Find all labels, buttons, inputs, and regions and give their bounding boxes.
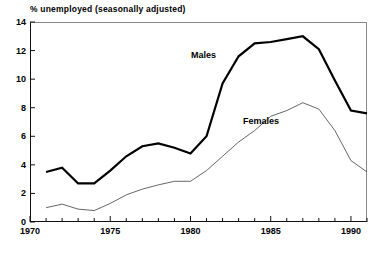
series-annotation-females: Females xyxy=(243,116,279,126)
series-annotation-males: Males xyxy=(191,50,216,60)
series-line-females xyxy=(46,103,367,211)
y-tick-label: 10 xyxy=(4,74,26,84)
x-tick-label: 1990 xyxy=(341,226,361,236)
y-tick-label: 6 xyxy=(4,131,26,141)
x-tick-label: 1985 xyxy=(261,226,281,236)
data-series-layer xyxy=(46,36,367,210)
x-tick-label: 1975 xyxy=(100,226,120,236)
x-tick-label: 1970 xyxy=(20,226,40,236)
x-tick-label: 1980 xyxy=(180,226,200,236)
y-tick-label: 14 xyxy=(4,17,26,27)
chart-canvas xyxy=(0,0,378,253)
y-tick-label: 4 xyxy=(4,160,26,170)
y-tick-label: 8 xyxy=(4,103,26,113)
unemployment-line-chart: % unemployed (seasonally adjusted) 02468… xyxy=(0,0,378,253)
y-tick-label: 12 xyxy=(4,46,26,56)
y-tick-label: 2 xyxy=(4,188,26,198)
